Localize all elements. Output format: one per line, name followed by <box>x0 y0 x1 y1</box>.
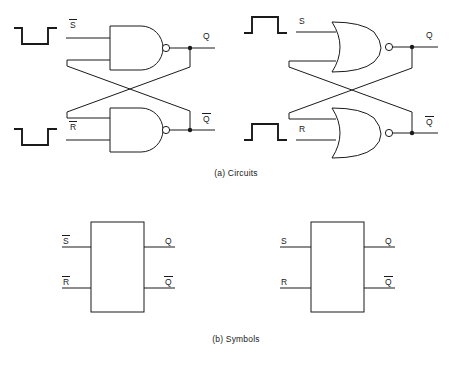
nor-symbol-qbar-label: Q <box>385 277 392 287</box>
nand-r-bar-label: R <box>70 122 76 132</box>
nand-symbol-qbar-label-group: Q <box>164 277 173 288</box>
nor-latch-circuit: S R Q Q <box>244 16 438 158</box>
nand-bottom-inversion-bubble-icon <box>162 126 169 133</box>
nor-gate-top <box>332 22 381 72</box>
nor-latch-symbol: S R Q Q <box>280 222 395 312</box>
nand-gate-top <box>110 26 163 70</box>
nor-symbol-q-label: Q <box>385 236 392 246</box>
nand-symbol-r-bar-label: R <box>63 277 69 287</box>
nand-latch-symbol: S R Q Q <box>62 222 175 312</box>
nand-symbol-s-bar-label-group: S <box>62 236 70 247</box>
nand-symbol-qbar-label: Q <box>165 277 172 287</box>
s-waveform <box>244 17 287 33</box>
nor-q-label: Q <box>426 30 433 40</box>
nor-symbol-qbar-label-group: Q <box>384 277 393 288</box>
nor-top-inversion-bubble-icon <box>385 43 392 50</box>
nand-r-bar-label-group: R <box>69 122 77 133</box>
nor-qbar-label-group: Q <box>425 117 434 128</box>
nand-qbar-label-group: Q <box>202 114 211 125</box>
nand-symbol-r-bar-label-group: R <box>62 277 70 288</box>
nor-symbol-r-label: R <box>281 277 287 287</box>
nor-gate-bottom <box>332 108 381 158</box>
nand-symbol-q-label: Q <box>165 236 172 246</box>
nor-s-label: S <box>299 16 305 26</box>
nand-q-label: Q <box>203 31 210 41</box>
s-bar-waveform <box>14 28 57 44</box>
nand-qbar-label: Q <box>203 114 210 124</box>
nand-s-bar-label-group: S <box>69 20 77 31</box>
r-waveform <box>244 124 287 140</box>
nand-gate-bottom <box>110 108 163 152</box>
nor-r-label: R <box>299 124 305 134</box>
nand-top-inversion-bubble-icon <box>162 44 169 51</box>
nand-symbol-s-bar-label: S <box>63 236 69 246</box>
nor-symbol-s-label: S <box>281 236 287 246</box>
figure-canvas: S R Q Q <box>0 0 452 380</box>
nor-symbol-box <box>311 222 364 312</box>
r-bar-waveform <box>14 129 57 145</box>
sr-latch-figure: S R Q Q <box>0 0 452 380</box>
nand-latch-circuit: S R Q Q <box>14 20 215 153</box>
nand-symbol-box <box>91 222 144 312</box>
nand-s-bar-label: S <box>70 20 76 30</box>
nor-bottom-inversion-bubble-icon <box>385 129 392 136</box>
nor-qbar-label: Q <box>426 117 433 127</box>
caption-symbols: (b) Symbols <box>176 334 296 344</box>
caption-circuits: (a) Circuits <box>176 168 296 178</box>
